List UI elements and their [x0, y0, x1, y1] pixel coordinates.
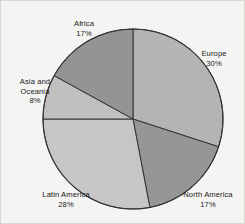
slice-label-europe: Europe 30% — [189, 49, 239, 68]
slice-label-north-america-name: North America — [173, 190, 243, 200]
slice-label-europe-value: 30% — [189, 59, 239, 69]
slice-label-africa-value: 17% — [57, 29, 111, 39]
slice-label-asia-and-oceania-name-line1: Asia and — [9, 77, 61, 87]
slice-label-europe-name: Europe — [189, 49, 239, 59]
slice-label-asia-and-oceania-name-line2: Oceania — [9, 87, 61, 97]
slice-label-asia-and-oceania: Asia and Oceania 8% — [9, 77, 61, 106]
slice-label-africa: Africa 17% — [57, 19, 111, 38]
slice-label-africa-name: Africa — [57, 19, 111, 29]
slice-label-north-america: North America 17% — [173, 190, 243, 209]
slice-label-latin-america: Latin America 28% — [28, 190, 104, 209]
slice-label-north-america-value: 17% — [173, 200, 243, 210]
slice-label-latin-america-name: Latin America — [28, 190, 104, 200]
pie-chart-figure: Europe 30% North America 17% Latin Ameri… — [0, 0, 245, 224]
slice-label-asia-and-oceania-value: 8% — [9, 96, 61, 106]
slice-label-latin-america-value: 28% — [28, 200, 104, 210]
